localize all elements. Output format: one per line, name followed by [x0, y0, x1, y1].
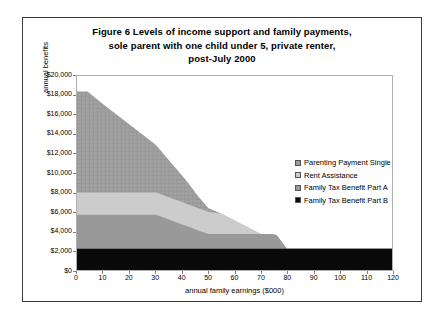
x-tick-label: 120 — [378, 274, 408, 281]
legend-item-label: Parenting Payment Single — [304, 158, 391, 167]
legend-swatch-icon — [295, 172, 301, 178]
figure-frame: Figure 6 Levels of income support and fa… — [22, 17, 422, 302]
chart-legend: Parenting Payment SingleRent AssistanceF… — [295, 157, 391, 207]
x-axis-title: annual family earnings ($000) — [76, 286, 393, 295]
legend-item-label: Family Tax Benefit Part A — [304, 183, 388, 192]
legend-item[interactable]: Family Tax Benefit Part A — [295, 182, 391, 194]
legend-swatch-icon — [295, 160, 301, 166]
legend-item[interactable]: Family Tax Benefit Part B — [295, 195, 391, 207]
chart-title: Figure 6 Levels of income support and fa… — [23, 25, 421, 66]
legend-swatch-icon — [295, 197, 301, 203]
legend-item-label: Rent Assistance — [304, 171, 358, 180]
chart-title-line-2: sole parent with one child under 5, priv… — [23, 39, 421, 53]
chart-title-line-1: Figure 6 Levels of income support and fa… — [23, 25, 421, 39]
legend-item[interactable]: Parenting Payment Single — [295, 157, 391, 169]
legend-item-label: Family Tax Benefit Part B — [304, 196, 388, 205]
legend-item[interactable]: Rent Assistance — [295, 170, 391, 182]
y-axis-tick-marks — [27, 75, 77, 271]
x-axis-tick-labels: 0102030405060708090100110120 — [76, 274, 393, 286]
chart-title-line-3: post-July 2000 — [23, 52, 421, 66]
area-series — [77, 249, 392, 270]
legend-swatch-icon — [295, 185, 301, 191]
